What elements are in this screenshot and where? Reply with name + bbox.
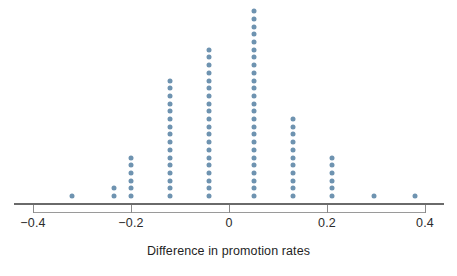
data-point-dot <box>251 40 256 45</box>
data-point-dot <box>371 194 376 199</box>
data-point-dot <box>207 55 212 60</box>
data-point-dot <box>207 109 212 114</box>
data-point-dot <box>329 178 334 183</box>
data-point-dot <box>251 132 256 137</box>
data-point-dot <box>207 132 212 137</box>
data-point-dot <box>207 70 212 75</box>
data-point-dot <box>207 194 212 199</box>
data-point-dot <box>207 93 212 98</box>
data-point-dot <box>207 117 212 122</box>
data-point-dot <box>207 170 212 175</box>
data-point-dot <box>290 124 295 129</box>
data-point-dot <box>251 101 256 106</box>
data-point-dot <box>129 170 134 175</box>
data-point-dot <box>168 186 173 191</box>
data-point-dot <box>251 186 256 191</box>
data-point-dot <box>290 194 295 199</box>
data-point-dot <box>168 86 173 91</box>
data-point-dot <box>251 78 256 83</box>
data-point-dot <box>168 93 173 98</box>
data-point-dot <box>168 132 173 137</box>
data-point-dot <box>251 147 256 152</box>
data-point-dot <box>129 155 134 160</box>
x-tick-label: −0.2 <box>118 216 143 230</box>
data-point-dot <box>329 163 334 168</box>
x-tick-mark <box>327 205 328 213</box>
data-point-dot <box>70 194 75 199</box>
data-point-dot <box>329 186 334 191</box>
data-point-dot <box>290 155 295 160</box>
data-point-dot <box>207 124 212 129</box>
data-point-dot <box>168 101 173 106</box>
data-point-dot <box>251 109 256 114</box>
data-point-dot <box>207 101 212 106</box>
data-point-dot <box>129 186 134 191</box>
data-point-dot <box>290 147 295 152</box>
data-point-dot <box>251 140 256 145</box>
data-point-dot <box>251 194 256 199</box>
data-point-dot <box>329 194 334 199</box>
x-tick-mark <box>131 205 132 213</box>
data-point-dot <box>290 186 295 191</box>
data-point-dot <box>207 86 212 91</box>
data-point-dot <box>168 170 173 175</box>
data-point-dot <box>129 194 134 199</box>
data-point-dot <box>329 155 334 160</box>
data-point-dot <box>251 93 256 98</box>
data-point-dot <box>329 170 334 175</box>
x-tick-mark <box>33 205 34 213</box>
data-point-dot <box>168 78 173 83</box>
x-tick-mark <box>229 205 230 213</box>
data-point-dot <box>207 155 212 160</box>
x-tick-mark <box>425 205 426 213</box>
data-point-dot <box>168 124 173 129</box>
data-point-dot <box>251 117 256 122</box>
data-point-dot <box>207 178 212 183</box>
data-point-dot <box>251 155 256 160</box>
data-point-dot <box>251 70 256 75</box>
data-point-dot <box>290 163 295 168</box>
x-tick-label: 0.4 <box>416 216 434 230</box>
plot-area <box>0 0 457 204</box>
data-point-dot <box>251 170 256 175</box>
data-point-dot <box>168 117 173 122</box>
data-point-dot <box>168 163 173 168</box>
data-point-dot <box>129 163 134 168</box>
data-point-dot <box>251 178 256 183</box>
data-point-dot <box>251 86 256 91</box>
data-point-dot <box>168 140 173 145</box>
data-point-dot <box>251 16 256 21</box>
dot-plot-figure: Difference in promotion rates −0.4−0.200… <box>0 0 457 276</box>
data-point-dot <box>251 9 256 14</box>
data-point-dot <box>207 147 212 152</box>
data-point-dot <box>207 163 212 168</box>
data-point-dot <box>251 32 256 37</box>
data-point-dot <box>290 170 295 175</box>
data-point-dot <box>290 132 295 137</box>
data-point-dot <box>290 117 295 122</box>
data-point-dot <box>251 163 256 168</box>
data-point-dot <box>251 63 256 68</box>
data-point-dot <box>168 194 173 199</box>
x-axis-ticks <box>0 205 457 215</box>
x-axis-label: Difference in promotion rates <box>0 244 457 258</box>
data-point-dot <box>111 186 116 191</box>
data-point-dot <box>111 194 116 199</box>
data-point-dot <box>168 147 173 152</box>
data-point-dot <box>251 24 256 29</box>
x-tick-label: −0.4 <box>20 216 45 230</box>
data-point-dot <box>207 63 212 68</box>
data-point-dot <box>168 155 173 160</box>
data-point-dot <box>207 140 212 145</box>
data-point-dot <box>290 178 295 183</box>
data-point-dot <box>207 186 212 191</box>
data-point-dot <box>290 140 295 145</box>
data-point-dot <box>251 47 256 52</box>
data-point-dot <box>207 78 212 83</box>
data-point-dot <box>168 109 173 114</box>
data-point-dot <box>207 47 212 52</box>
x-tick-label: 0.2 <box>318 216 336 230</box>
data-point-dot <box>129 178 134 183</box>
data-point-dot <box>168 178 173 183</box>
data-point-dot <box>413 194 418 199</box>
